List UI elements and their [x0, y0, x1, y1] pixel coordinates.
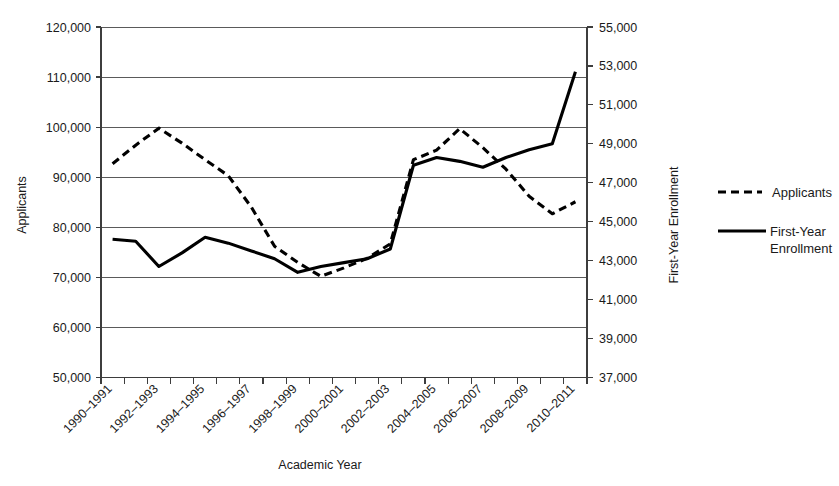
x-category-label: 1994–1995: [153, 382, 207, 436]
right-tick-label: 43,000: [599, 254, 637, 268]
right-tick-label: 53,000: [599, 59, 637, 73]
chart-container: 120,000110,000100,00090,00080,00070,0006…: [0, 0, 839, 486]
x-category-label: 1996–1997: [199, 382, 253, 436]
chart-svg: 120,000110,000100,00090,00080,00070,0006…: [0, 0, 839, 486]
right-axis-tick-labels: 55,00053,00051,00049,00047,00045,00043,0…: [599, 21, 637, 386]
left-axis-tick-labels: 120,000110,000100,00090,00080,00070,0006…: [46, 21, 91, 386]
left-tick-label: 60,000: [53, 321, 91, 335]
x-category-label: 1990–1991: [61, 382, 115, 436]
left-axis-ticks: [96, 27, 101, 378]
left-axis-title: Applicants: [15, 176, 29, 234]
left-tick-label: 70,000: [53, 271, 91, 285]
left-tick-label: 110,000: [47, 71, 91, 85]
gridlines-group: [101, 27, 587, 378]
right-tick-label: 39,000: [599, 332, 637, 346]
x-category-label: 2000–2001: [292, 382, 346, 436]
right-tick-label: 51,000: [599, 98, 637, 112]
series-line-first-year-enrollment: [113, 72, 576, 273]
left-tick-label: 50,000: [53, 371, 91, 385]
right-tick-label: 45,000: [599, 215, 637, 229]
right-tick-label: 47,000: [599, 176, 637, 190]
left-tick-label: 120,000: [46, 21, 91, 35]
right-tick-label: 37,000: [599, 371, 637, 385]
right-axis-ticks: [587, 27, 593, 378]
x-category-label: 2004–2005: [385, 382, 439, 436]
left-tick-label: 100,000: [46, 121, 91, 135]
bottom-axis-ticks: [101, 378, 587, 384]
right-tick-label: 49,000: [599, 137, 637, 151]
legend-label-applicants: Applicants: [772, 185, 832, 200]
x-category-label: 1998–1999: [246, 382, 300, 436]
x-axis-category-labels: 1990–19911992–19931994–19951996–19971998…: [61, 382, 578, 436]
legend-label-first-year-enrollment-line2: Enrollment: [770, 241, 833, 256]
right-axis-title: First-Year Enrollment: [667, 166, 681, 283]
left-tick-label: 90,000: [53, 171, 91, 185]
right-tick-label: 55,000: [599, 21, 637, 35]
x-axis-title: Academic Year: [278, 458, 361, 472]
right-tick-label: 41,000: [599, 293, 637, 307]
legend: Applicants First-Year Enrollment: [718, 185, 833, 256]
x-category-label: 2008–2009: [477, 382, 531, 436]
legend-label-first-year-enrollment: First-Year: [770, 224, 827, 239]
x-category-label: 2006–2007: [431, 382, 485, 436]
left-tick-label: 80,000: [53, 221, 91, 235]
x-category-label: 2002–2003: [338, 382, 392, 436]
x-category-label: 2010–2011: [524, 382, 578, 436]
x-category-label: 1992–1993: [107, 382, 161, 436]
